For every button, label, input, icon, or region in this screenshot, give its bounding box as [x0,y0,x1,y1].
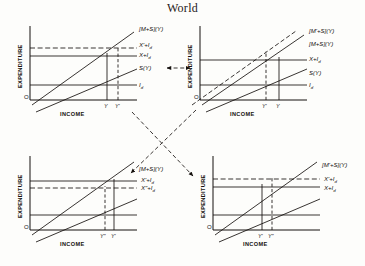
connector-diagonal-down-left [131,110,196,173]
quadrant-top-left [30,26,137,112]
quadrant-bottom-left [30,156,137,242]
x-tick-ydblprime: Y" [100,233,107,239]
curve-label-m-plus-s: [M+S](Y) [308,40,333,47]
x-tick-y: Y [276,103,280,109]
line-m-plus-s [32,32,134,105]
line-mprime-plus-s [192,31,296,105]
x-tick-y: Y [104,103,108,109]
line-s-of-y [206,69,307,112]
line-m-plus-s [32,162,134,235]
x-axis-title: INCOME [60,241,84,247]
y-axis-title: EXPENDITURE [17,44,23,88]
line-s-of-y [36,69,137,112]
curve-label-x-plus-id: X+Id [308,55,321,64]
x-tick-yprime: Y' [115,103,121,109]
curve-label-mprime-plus-s: [M'+S](Y) [308,27,334,34]
curve-label-s-of-y: S(Y) [309,69,321,76]
figure-title: World [113,1,252,16]
y-axis-title: EXPENDITURE [200,174,206,218]
quadrant-bottom-right [213,156,320,242]
x-axis-title: INCOME [243,241,267,247]
curve-label-m-plus-s: [M+S](Y) [138,25,163,32]
diagram-canvas: EXPENDITURE INCOME O [M+S](Y) X'+Id X+Id… [0,0,365,266]
curve-label-xprime-plus-id: X'+Id [138,41,152,50]
curve-label-id: Id [139,81,144,90]
line-mprime-plus-s [215,162,317,235]
curve-label-x-plus-id: X+Id [323,184,336,193]
top-left-labels: EXPENDITURE INCOME O [M+S](Y) X'+Id X+Id… [17,25,163,117]
x-axis-title: INCOME [60,111,84,117]
bottom-left-labels: EXPENDITURE INCOME O [M+S](Y) X'+Id X"+I… [17,165,163,247]
curve-label-mprime-plus-s: [M'+S](Y) [321,161,347,168]
x-axis-title: INCOME [230,111,254,117]
origin-label: O [194,94,199,100]
top-right-labels: EXPENDITURE INCOME O [M'+S](Y) [M+S](Y) … [187,27,334,117]
quadrant-top-right [192,26,307,112]
y-axis-title: EXPENDITURE [17,174,23,218]
bottom-right-labels: EXPENDITURE INCOME O [M'+S](Y) X'+Id X+I… [200,161,347,247]
x-tick-yprime: Y' [262,103,268,109]
line-m-plus-s [202,35,304,105]
x-tick-yprime: Y' [111,233,117,239]
curve-label-xdblprime-plus-id: X"+Id [140,184,155,193]
origin-label: O [207,224,212,230]
x-tick-yprime: Y' [258,233,264,239]
curve-label-x-plus-id: X+Id [138,51,151,60]
curve-label-m-plus-s: [M+S](Y) [138,165,163,172]
four-quadrant-diagram: World [0,0,365,266]
origin-label: O [24,224,29,230]
x-tick-ydblprime: Y" [268,233,275,239]
y-axis-title: EXPENDITURE [187,44,193,88]
curve-label-s-of-y: S(Y) [139,64,151,71]
line-s-of-y [36,199,137,242]
curve-label-id: Id [309,81,314,90]
origin-label: O [24,94,29,100]
curve-label-xprime-plus-id: X'+Id [323,175,337,184]
